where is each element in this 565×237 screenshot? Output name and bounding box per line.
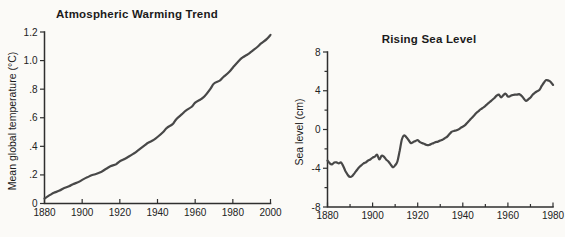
y-tick-label: 8 xyxy=(315,47,321,58)
y-tick-label: 4 xyxy=(315,85,321,96)
axis-lines xyxy=(328,52,554,207)
x-tick-label: 1880 xyxy=(33,207,56,218)
warming-plot-area: 0.2.4.6.81.01.21880190019201940196019802… xyxy=(24,27,282,218)
y-tick-label: .4 xyxy=(29,141,38,152)
x-tick-label: 1900 xyxy=(71,207,94,218)
warming-y-axis-label: Mean global temperature (°C) xyxy=(6,52,18,190)
x-tick-label: 1920 xyxy=(109,207,132,218)
sea-level-plot-area: -8-4048188019001920194019601980 xyxy=(312,47,565,222)
y-tick-label: .2 xyxy=(29,169,38,180)
figure-panel: Atmospheric Warming Trend Rising Sea Lev… xyxy=(0,0,565,237)
y-tick-label: 0 xyxy=(315,124,321,135)
x-tick-label: 1960 xyxy=(184,207,207,218)
y-tick-label: .6 xyxy=(29,112,38,123)
x-tick-label: 1960 xyxy=(497,210,520,221)
warming-trend-line xyxy=(45,35,271,199)
x-tick-label: 1880 xyxy=(316,210,339,221)
x-tick-label: 1920 xyxy=(407,210,430,221)
y-tick-label: 1.2 xyxy=(24,27,38,38)
y-tick-label: -4 xyxy=(312,163,321,174)
x-tick-label: 1980 xyxy=(542,210,565,221)
dual-line-charts: Atmospheric Warming Trend Rising Sea Lev… xyxy=(0,0,565,237)
axis-lines xyxy=(45,32,271,204)
sea-level-chart-title: Rising Sea Level xyxy=(382,33,477,45)
sea-level-line xyxy=(328,80,554,177)
warming-chart-title: Atmospheric Warming Trend xyxy=(56,8,218,20)
sea-level-y-axis-label: Sea level (cm) xyxy=(293,98,305,165)
x-tick-label: 2000 xyxy=(259,207,282,218)
x-tick-label: 1980 xyxy=(222,207,245,218)
y-tick-label: .8 xyxy=(29,84,38,95)
y-tick-label: 1.0 xyxy=(24,55,38,66)
x-tick-label: 1940 xyxy=(146,207,169,218)
x-tick-label: 1900 xyxy=(361,210,384,221)
x-tick-label: 1940 xyxy=(452,210,475,221)
